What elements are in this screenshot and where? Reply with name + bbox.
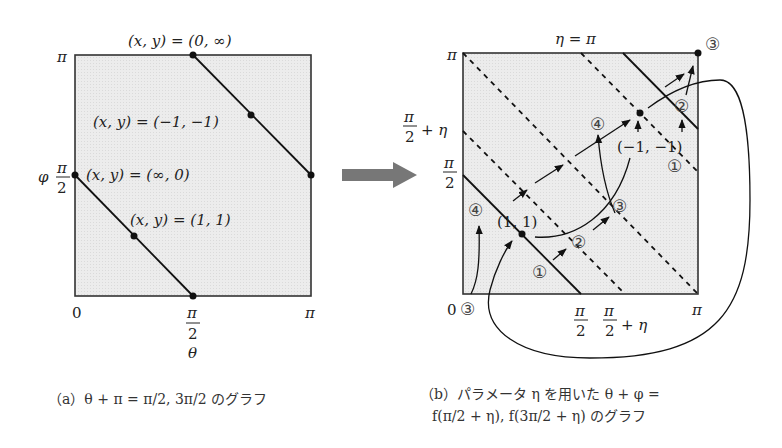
- panel-b-x-tick-half-eta-suffix: + η: [621, 316, 647, 334]
- panel-a-x-tick-half-num: π: [186, 304, 198, 322]
- panel-b-marker-c2-low: ②: [571, 232, 586, 252]
- panel-b-point-m1-m1: [637, 110, 644, 117]
- panel-a-x-tick-pi: π: [304, 304, 316, 322]
- transition-arrow-icon: [342, 162, 417, 188]
- panel-b-x-tick-pi: π: [691, 301, 703, 319]
- panel-a: (x, y) = (0, ∞) (x, y) = (−1, −1) (x, y)…: [38, 32, 316, 362]
- panel-b-y-tick-half-eta-num: π: [403, 108, 415, 126]
- panel-b-y-tick-half-den: 2: [445, 174, 455, 192]
- figure-canvas: (x, y) = (0, ∞) (x, y) = (−1, −1) (x, y)…: [0, 0, 782, 448]
- panel-b-x-tick-half-eta-den: 2: [605, 322, 615, 340]
- panel-a-label-mid-point: (x, y) = (−1, −1): [93, 113, 219, 131]
- panel-b-label-point-m1-m1: (−1, −1): [617, 138, 682, 156]
- panel-b-x-tick-zero: 0: [447, 301, 457, 319]
- panel-a-point-low: [131, 233, 138, 240]
- panel-b-y-tick-pi: π: [446, 46, 458, 64]
- panel-a-x-tick-zero: 0: [72, 304, 82, 322]
- panel-a-y-tick-pi: π: [56, 48, 68, 66]
- panel-b-point-1-1: [519, 231, 526, 238]
- panel-b-marker-c4-up: ④: [590, 114, 605, 134]
- panel-b-x-tick-half-num: π: [574, 302, 586, 320]
- panel-b-top-label: η = π: [555, 30, 597, 48]
- panel-b-marker-c1-low: ①: [532, 262, 547, 282]
- panel-a-x-axis-var: θ: [188, 344, 197, 362]
- panel-b-marker-c3-mid: ③: [612, 196, 627, 216]
- panel-b-marker-c1-right: ①: [667, 156, 682, 176]
- panel-b-y-tick-half-eta-suffix: + η: [421, 121, 447, 139]
- panel-b-marker-c2-right: ②: [674, 96, 689, 116]
- panel-b-caption-line1: （b）パラメータ η を用いた θ + φ =: [420, 383, 660, 403]
- panel-a-label-low-point: (x, y) = (1, 1): [130, 211, 231, 229]
- panel-a-x-tick-half-den: 2: [188, 325, 198, 343]
- panel-b-caption-line2: f(π/2 + η), f(3π/2 + η) のグラフ: [432, 405, 646, 425]
- panel-b: η = π π π 2 + η π 2 0 π 2 π 2 + η π (1, …: [403, 30, 750, 358]
- panel-b-point-corner: [695, 50, 702, 57]
- panel-b-marker-c4-left: ④: [468, 200, 483, 220]
- panel-a-label-left-point: (x, y) = (∞, 0): [86, 166, 190, 184]
- panel-a-label-top-point: (x, y) = (0, ∞): [128, 32, 232, 50]
- panel-a-y-tick-half-num: π: [56, 159, 68, 177]
- panel-a-point-right: [308, 172, 315, 179]
- panel-b-x-tick-half-den: 2: [576, 322, 586, 340]
- panel-a-point-bottom: [190, 293, 197, 300]
- panel-b-y-tick-half-eta-den: 2: [405, 128, 415, 146]
- panel-a-y-axis-var: φ: [38, 168, 49, 186]
- panel-a-y-tick-half-den: 2: [57, 179, 67, 197]
- panel-b-marker-c3-corner: ③: [705, 34, 720, 54]
- panel-b-label-point-1-1: (1, 1): [497, 213, 537, 231]
- panel-a-point-mid: [248, 112, 255, 119]
- panel-a-point-left: [72, 172, 79, 179]
- panel-b-marker-c3-origin: ③: [460, 299, 475, 319]
- panel-b-x-tick-half-eta-num: π: [603, 302, 615, 320]
- panel-a-point-top: [190, 52, 197, 59]
- panel-a-caption: （a）θ + π = π/2, 3π/2 のグラフ: [48, 388, 267, 408]
- panel-b-y-tick-half-num: π: [443, 154, 455, 172]
